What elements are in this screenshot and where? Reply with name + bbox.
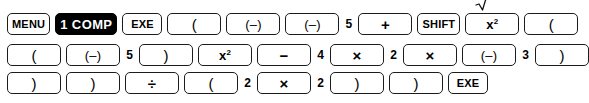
key-minus[interactable]: − [257, 44, 311, 66]
key-1-comp[interactable]: 1 COMP [55, 13, 117, 35]
key-close-paren[interactable]: ) [66, 72, 120, 94]
key-label: × [353, 48, 362, 63]
key-label: ) [559, 48, 564, 63]
key-plus[interactable]: + [358, 13, 412, 35]
key-label: ) [31, 76, 36, 91]
key-label: x2 [219, 49, 231, 62]
key-negative[interactable]: (–) [66, 44, 120, 66]
key-label: 1 COMP [60, 18, 112, 31]
key-open-paren[interactable]: ( [167, 13, 221, 35]
digit-2: 2 [316, 72, 325, 94]
key-multiply[interactable]: × [330, 44, 384, 66]
key-menu[interactable]: MENU [7, 13, 50, 35]
key-label: − [280, 48, 289, 63]
key-x-squared[interactable]: x2 [198, 44, 252, 66]
key-exe[interactable]: EXE [448, 72, 488, 94]
key-shift[interactable]: SHIFT [417, 13, 460, 35]
digit-5: 5 [125, 44, 134, 66]
key-label: (–) [85, 49, 102, 62]
key-label: ( [549, 17, 554, 32]
key-multiply[interactable]: × [403, 44, 457, 66]
key-label: (–) [245, 18, 262, 31]
key-label: ( [192, 17, 197, 32]
key-label: ( [208, 76, 213, 91]
key-label: ) [413, 76, 418, 91]
key-label: ( [31, 48, 36, 63]
key-open-paren[interactable]: ( [524, 13, 578, 35]
key-negative[interactable]: (–) [226, 13, 280, 35]
digit-3: 3 [521, 44, 530, 66]
key-label: SHIFT [422, 19, 455, 30]
key-x-squared[interactable]: x2 [465, 13, 519, 35]
digit-2: 2 [389, 44, 398, 66]
key-label: (–) [304, 18, 321, 31]
key-close-paren[interactable]: ) [535, 44, 589, 66]
key-label: MENU [12, 19, 45, 30]
key-label: EXE [131, 19, 154, 30]
key-label: (–) [481, 49, 498, 62]
key-open-paren[interactable]: ( [184, 72, 238, 94]
key-exe[interactable]: EXE [122, 13, 162, 35]
key-row-1: MENU1 COMPEXE((–)(–)5+SHIFTx2( [7, 13, 578, 35]
digit-4: 4 [316, 44, 325, 66]
key-label: ) [354, 76, 359, 91]
key-label: × [426, 48, 435, 63]
key-label: + [381, 17, 390, 32]
key-label: × [280, 76, 289, 91]
digit-5: 5 [344, 13, 353, 35]
key-divide[interactable]: ÷ [125, 72, 179, 94]
key-label: ) [163, 48, 168, 63]
key-close-paren[interactable]: ) [139, 44, 193, 66]
key-close-paren[interactable]: ) [7, 72, 61, 94]
key-label: x2 [486, 18, 498, 31]
key-negative[interactable]: (–) [462, 44, 516, 66]
key-negative[interactable]: (–) [285, 13, 339, 35]
digit-2: 2 [243, 72, 252, 94]
key-multiply[interactable]: × [257, 72, 311, 94]
key-open-paren[interactable]: ( [7, 44, 61, 66]
key-row-3: ))÷(2×2))EXE [7, 72, 488, 94]
key-label: EXE [457, 78, 480, 89]
key-label: ÷ [148, 76, 156, 91]
key-close-paren[interactable]: ) [389, 72, 443, 94]
key-row-2: ((–)5)x2−4×2×(–)3) [7, 44, 589, 66]
sqrt-icon [475, 0, 509, 11]
key-label: ) [90, 76, 95, 91]
key-close-paren[interactable]: ) [330, 72, 384, 94]
